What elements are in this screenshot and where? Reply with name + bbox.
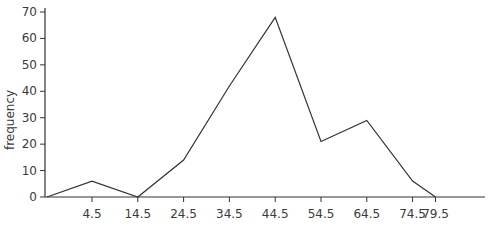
y-tick-label: 50	[22, 58, 37, 72]
x-tick-label: 34.5	[216, 207, 243, 221]
x-tick-label: 64.5	[353, 207, 380, 221]
x-axis: 4.514.524.534.544.554.564.574.579.5	[45, 197, 485, 221]
y-tick-label: 70	[22, 5, 37, 19]
frequency-polygon-chart: 010203040506070 4.514.524.534.544.554.56…	[0, 0, 497, 233]
y-tick-label: 0	[29, 190, 37, 204]
x-tick-label: 24.5	[170, 207, 197, 221]
x-tick-label: 14.5	[124, 207, 151, 221]
x-tick-label: 79.5	[422, 207, 449, 221]
y-tick-label: 30	[22, 111, 37, 125]
y-tick-label: 40	[22, 84, 37, 98]
y-tick-label: 20	[22, 137, 37, 151]
y-axis: 010203040506070	[22, 5, 45, 204]
x-tick-label: 54.5	[308, 207, 335, 221]
y-tick-label: 60	[22, 31, 37, 45]
frequency-line	[47, 17, 436, 197]
y-axis-title: frequency	[3, 90, 17, 150]
x-tick-label: 44.5	[262, 207, 289, 221]
x-tick-label: 4.5	[82, 207, 101, 221]
y-tick-label: 10	[22, 164, 37, 178]
